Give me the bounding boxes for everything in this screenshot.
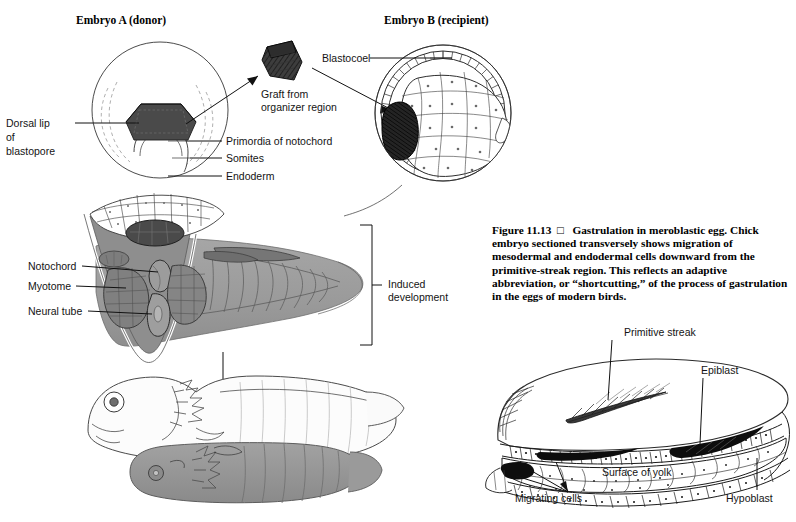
figure-number: Figure 11.13	[492, 224, 551, 236]
label-surface-of-yolk: Surface of yolk	[602, 466, 671, 479]
embryo-b-drawing	[375, 45, 511, 181]
label-induced-development-line2: development	[388, 291, 448, 304]
label-myotome: Myotome	[28, 280, 71, 293]
twinned-larva-drawing	[88, 376, 404, 503]
label-hypoblast: Hypoblast	[726, 492, 773, 505]
label-primordia-of-notochord: Primordia of notochord	[226, 135, 332, 148]
label-blastocoel: Blastocoel	[322, 52, 370, 65]
induced-section-drawing	[84, 193, 363, 362]
chick-blastoderm-drawing	[486, 359, 790, 508]
label-induced-development-line1: Induced	[388, 278, 425, 291]
label-epiblast: Epiblast	[701, 364, 738, 377]
label-dorsal-lip-line3: blastopore	[6, 145, 55, 158]
label-dorsal-lip-line1: Dorsal lip	[6, 117, 50, 130]
label-primitive-streak: Primitive streak	[624, 326, 696, 339]
figure-caption: Figure 11.13 □ Gastrulation in meroblast…	[492, 224, 788, 303]
label-neural-tube: Neural tube	[28, 305, 82, 318]
label-endoderm: Endoderm	[226, 170, 274, 183]
graft-piece	[262, 41, 302, 80]
caption-marker-icon: □	[557, 224, 564, 236]
label-graft-line1: Graft from	[261, 88, 308, 101]
label-graft-line2: organizer region	[261, 101, 337, 114]
induced-development-bracket	[360, 225, 382, 345]
label-notochord: Notochord	[28, 260, 76, 273]
label-migrating-cells: Migrating cells	[515, 492, 582, 505]
arrow-donor-to-graft	[186, 76, 258, 124]
figure-11-13-plate: Embryo A (donor) Embryo B (recipient)	[0, 0, 796, 522]
label-somites: Somites	[226, 152, 264, 165]
label-dorsal-lip-line2: of	[6, 131, 15, 144]
